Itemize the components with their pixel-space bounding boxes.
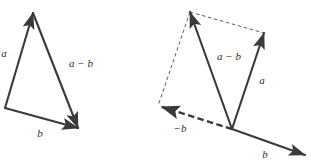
construction-parallel-edge-top (190, 12, 264, 33)
vector-subtraction-figure: a b a − b a b −b a − b (0, 0, 311, 165)
label-vector-b: b (37, 127, 43, 139)
vector-a-minus-b-line (33, 13, 78, 128)
vector-b-line (232, 129, 305, 155)
label-vector-a-minus-b: a − b (217, 50, 241, 62)
vector-a-minus-b-line (190, 12, 232, 129)
label-vector-b: b (262, 148, 268, 160)
label-vector-minus-b: −b (174, 122, 187, 134)
vector-b-line (5, 108, 78, 128)
construction-parallel-edge-left (158, 12, 190, 106)
vector-minus-b-line (162, 107, 232, 129)
diagram-canvas: a b a − b a b −b a − b (0, 0, 311, 165)
right-diagram: a b −b a − b (158, 12, 305, 160)
left-diagram: a b a − b (1, 13, 93, 139)
vector-a-line (5, 13, 33, 108)
label-vector-a: a (1, 47, 7, 59)
label-vector-a-minus-b: a − b (69, 57, 93, 69)
label-vector-a: a (259, 74, 265, 86)
